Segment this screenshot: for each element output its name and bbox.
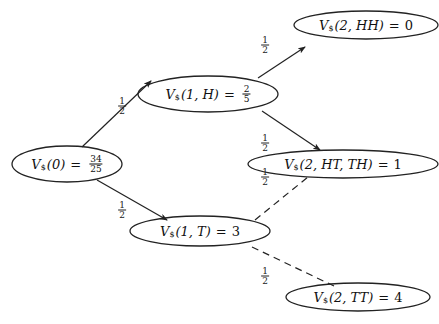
equals-sign: = [378,290,389,305]
probability-denominator: 2 [119,211,125,220]
node-label-TT2: V$(2, TT)=4 [314,290,403,305]
equals-sign: = [224,87,235,102]
probability-denominator: 2 [119,107,125,116]
edge-probability-label: 12 [118,97,126,116]
currency-subscript: $ [323,296,328,305]
node-label-HH2: V$(2, HH)=0 [319,18,413,33]
node-value: 3 [232,224,240,239]
node-label-HTTH2: V$(2, HT, TH)=1 [284,157,402,172]
edge-probability-label: 12 [261,267,269,286]
node-label-root: V$(0)=3425 [31,155,102,174]
equals-sign: = [70,157,81,172]
currency-subscript: $ [169,230,174,239]
edge-probability-label: 12 [261,134,269,153]
edge-probability-label: 12 [261,168,269,187]
value-symbol: V [319,18,328,33]
probability-denominator: 2 [262,178,268,187]
node-label-T1: V$(1, T)=3 [160,224,240,239]
currency-subscript: $ [328,24,333,33]
edge-root-to-H1 [82,81,151,147]
node-value-fraction: 25 [243,85,251,104]
node-value: 1 [394,157,402,172]
value-symbol: V [31,157,40,172]
node-arguments: (2, TT) [329,290,373,305]
node-label-H1: V$(1, H)=25 [165,85,250,104]
probability-denominator: 2 [262,144,268,153]
probability-denominator: 2 [262,46,268,55]
value-symbol: V [284,157,293,172]
currency-subscript: $ [175,93,180,102]
node-arguments: (1, T) [175,224,210,239]
probability-denominator: 2 [262,277,268,286]
edge-probability-label: 12 [118,201,126,220]
value-symbol: V [165,87,174,102]
currency-subscript: $ [294,163,299,172]
value-symbol: V [314,290,323,305]
edge-root-to-T1 [97,180,167,220]
node-arguments: (2, HH) [334,18,383,33]
value-symbol: V [160,224,169,239]
edge-H1-to-HTTH2 [262,111,320,150]
node-arguments: (0) [47,157,65,172]
node-value: 0 [405,18,413,33]
equals-sign: = [216,224,227,239]
currency-subscript: $ [41,163,46,172]
fraction-denominator: 5 [244,95,250,104]
node-value-fraction: 3425 [89,155,102,174]
fraction-denominator: 25 [90,165,101,174]
node-value: 4 [394,290,402,305]
edge-probability-label: 12 [261,36,269,55]
equals-sign: = [389,18,400,33]
node-arguments: (2, HT, TH) [300,157,373,172]
equals-sign: = [378,157,389,172]
node-arguments: (1, H) [181,87,219,102]
